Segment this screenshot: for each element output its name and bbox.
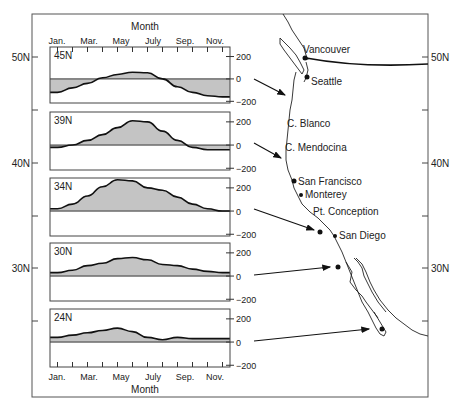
san-diego-marker	[333, 234, 337, 238]
area-fill	[50, 72, 230, 97]
border-line	[306, 58, 428, 65]
tick-label-jul: July	[145, 36, 162, 46]
y-tick-label: 0	[236, 141, 241, 151]
y-tick-label: 0	[236, 338, 241, 348]
tick-label-mar: Mar.	[80, 36, 98, 46]
place-san-francisco: San Francisco	[298, 176, 362, 187]
mainland-mexico	[356, 258, 428, 336]
panels: 45N2000−20039N2000−20034N2000−20030N2000…	[50, 47, 256, 371]
gulf-inner	[354, 258, 386, 312]
panel-label: 24N	[54, 312, 72, 323]
tick-label-jan: Jan.	[48, 36, 65, 46]
tick-label-may: May	[112, 36, 130, 46]
tick-label-nov-bottom: Nov.	[206, 372, 224, 382]
upwelling-figure: 50N 40N 30N 50N 40N 30N Month Jan. Mar. …	[0, 0, 460, 411]
tick-label-may-bottom: May	[112, 372, 130, 382]
y-tick-label: 0	[236, 207, 241, 217]
monterey-marker	[299, 193, 303, 197]
lat-label-50n: 50N	[12, 52, 30, 63]
panel-24n: 24N2000−200	[50, 309, 256, 371]
place-pt-conception: Pt. Conception	[313, 206, 379, 217]
y-tick-label: 0	[236, 272, 241, 282]
place-seattle: Seattle	[311, 76, 343, 87]
tick-label-jan-bottom: Jan.	[48, 372, 65, 382]
vancouver-marker	[303, 56, 308, 61]
arrow-45n	[254, 79, 285, 95]
y-tick-label: −200	[236, 164, 256, 174]
bottom-month-axis: Jan. Mar. May July Sep. Nov. Month	[48, 372, 223, 395]
right-latitude-axis: 50N 40N 30N	[422, 52, 449, 321]
y-tick-label: 0	[236, 74, 241, 84]
baja-west	[346, 262, 378, 318]
area-fill	[50, 258, 230, 277]
arrow-30n	[254, 267, 330, 275]
tick-label-mar-bottom: Mar.	[80, 372, 98, 382]
y-tick-label: 200	[236, 117, 251, 127]
lat-label-30n-right: 30N	[431, 263, 449, 274]
y-tick-label: −200	[236, 97, 256, 107]
left-latitude-axis: 50N 40N 30N	[12, 52, 38, 321]
panel-45n: 45N2000−200	[50, 47, 256, 107]
panel-39n: 39N2000−200	[50, 112, 256, 174]
tick-label-sep: Sep.	[176, 36, 195, 46]
y-tick-label: 200	[236, 314, 251, 324]
places: Vancouver Seattle C. Blanco C. Mendocina…	[285, 44, 386, 241]
place-monterey: Monterey	[305, 189, 347, 200]
target-points	[318, 230, 385, 332]
arrow-39n	[254, 143, 281, 158]
lat-label-40n-right: 40N	[431, 158, 449, 169]
y-tick-label: 200	[236, 52, 251, 62]
panel-label: 34N	[54, 181, 72, 192]
place-vancouver: Vancouver	[303, 44, 351, 55]
arrow-24n	[254, 329, 369, 341]
panel-label: 30N	[54, 246, 72, 257]
place-c-blanco: C. Blanco	[287, 118, 331, 129]
san-francisco-marker	[292, 179, 297, 184]
tick-label-sep-bottom: Sep.	[176, 372, 195, 382]
place-san-diego: San Diego	[339, 230, 386, 241]
y-tick-label: 200	[236, 248, 251, 258]
y-tick-label: −200	[236, 361, 256, 371]
seattle-marker	[305, 75, 310, 80]
y-tick-label: 200	[236, 183, 251, 193]
tick-label-nov: Nov.	[206, 36, 224, 46]
panel-30n: 30N2000−200	[50, 243, 256, 305]
top-month-axis: Month Jan. Mar. May July Sep. Nov.	[48, 21, 223, 46]
month-axis-title-top: Month	[131, 21, 159, 32]
panel-label: 39N	[54, 115, 72, 126]
lat-label-40n: 40N	[12, 158, 30, 169]
place-c-mendocina: C. Mendocina	[285, 142, 347, 153]
y-tick-label: −200	[236, 230, 256, 240]
y-tick-label: −200	[236, 295, 256, 305]
panel-34n: 34N2000−200	[50, 178, 256, 240]
lat-label-30n: 30N	[12, 263, 30, 274]
tick-label-jul-bottom: July	[145, 372, 162, 382]
lat-label-50n-right: 50N	[431, 52, 449, 63]
west-coast	[286, 72, 386, 336]
month-axis-title-bottom: Month	[131, 384, 159, 395]
coastline-map	[280, 14, 428, 336]
arrow-34n	[254, 209, 314, 230]
panel-label: 45N	[54, 50, 72, 61]
